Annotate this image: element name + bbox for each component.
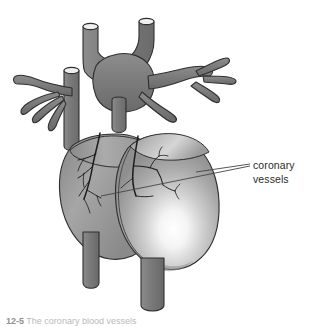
aorta-ascending-cut-end bbox=[83, 23, 98, 29]
aorta-branch-cut-end bbox=[139, 18, 154, 24]
pulmonary-vein-right-branch-3 bbox=[191, 82, 220, 103]
label-coronary-vessels-line1: coronary bbox=[253, 158, 295, 172]
pulmonary-vein-right-trunk bbox=[139, 92, 177, 122]
superior-vena-cava bbox=[64, 68, 79, 151]
great-vessels-group bbox=[14, 18, 236, 150]
pulmonary-veins-left bbox=[14, 75, 72, 96]
figure-caption-number: 12-5 bbox=[6, 318, 24, 326]
left-atrium-tube bbox=[112, 97, 126, 133]
label-coronary-vessels: coronary vessels bbox=[253, 158, 295, 186]
pulmonary-vein-right-branch-2 bbox=[203, 76, 236, 84]
label-coronary-vessels-line2: vessels bbox=[253, 172, 295, 186]
figure-caption: 12-5 The coronary blood vessels bbox=[6, 318, 306, 327]
superior-vena-cava-cut-end bbox=[64, 67, 79, 73]
inferior-vena-cava-stump bbox=[83, 232, 99, 288]
figure-heart-coronary-vessels: coronary vessels 12-5 The coronary blood… bbox=[0, 0, 313, 327]
figure-caption-text: The coronary blood vessels bbox=[26, 318, 136, 326]
descending-aorta-stump bbox=[141, 258, 164, 311]
